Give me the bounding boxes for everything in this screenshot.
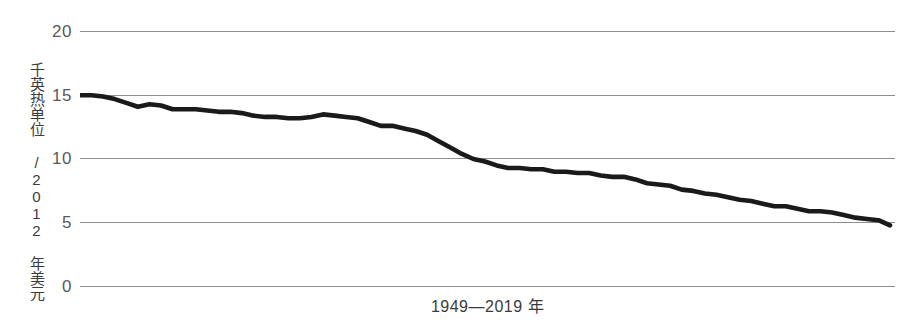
plot-area: [80, 0, 895, 334]
x-axis-title: 1949—2019 年: [80, 293, 895, 317]
y-tick-10: 10: [42, 150, 72, 167]
y-tick-5: 5: [42, 214, 72, 231]
y-tick-20: 20: [42, 23, 72, 40]
y-axis-title: 千英热单位 /2012 年美元: [18, 62, 44, 247]
gridlines: [80, 32, 895, 287]
energy-intensity-line-chart: 千英热单位 /2012 年美元 20 15 10 5 0 1949—2019 年: [0, 0, 919, 334]
plot-svg: [80, 0, 895, 334]
y-tick-0: 0: [42, 278, 72, 295]
data-series-line: [80, 95, 890, 225]
y-tick-15: 15: [42, 87, 72, 104]
y-axis-tick-labels: 20 15 10 5 0: [42, 0, 72, 334]
